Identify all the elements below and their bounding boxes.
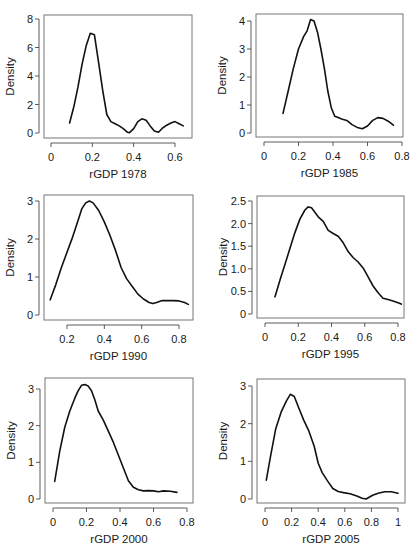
x-tick-label: 0.2 xyxy=(59,333,74,345)
y-tick-label: 2.0 xyxy=(231,218,246,230)
y-axis-label: Density xyxy=(217,238,229,277)
x-axis-label: rGDP 1995 xyxy=(302,348,359,360)
x-tick-label: 0.4 xyxy=(325,150,340,162)
x-tick-label: 0.8 xyxy=(390,331,405,343)
y-tick-label: 2.5 xyxy=(231,195,246,207)
y-axis-label: Density xyxy=(216,56,228,95)
x-tick-label: 0.2 xyxy=(291,331,306,343)
y-tick-label: 4 xyxy=(27,70,33,82)
density-figure-grid: 0246800.20.40.6rGDP 1978Density 0123400.… xyxy=(0,0,417,550)
x-axis-label: rGDP 1978 xyxy=(89,168,146,180)
y-tick-label: 1 xyxy=(240,455,246,467)
x-tick-label: 0.6 xyxy=(134,333,149,345)
y-axis-label: Density xyxy=(4,57,16,96)
density-plot-1990: 01230.20.40.60.8rGDP 1990Density xyxy=(0,182,210,364)
density-panel-1985: 0123400.20.40.60.8rGDP 1985Density xyxy=(210,0,417,180)
x-tick-label: 0 xyxy=(261,150,267,162)
y-tick-label: 1 xyxy=(239,99,245,111)
x-tick-label: 0.6 xyxy=(357,331,372,343)
x-axis: 0.20.40.60.8 xyxy=(59,325,186,345)
x-tick-label: 0.8 xyxy=(364,516,379,528)
density-curve xyxy=(275,207,401,304)
y-axis-label: Density xyxy=(217,422,229,461)
density-curve xyxy=(266,394,398,499)
density-panel-2005: 012300.20.40.60.81rGDP 2005Density xyxy=(210,366,417,550)
density-curve xyxy=(283,20,393,129)
y-tick-label: 4 xyxy=(239,15,245,27)
x-axis: 00.20.40.60.8 xyxy=(50,508,195,528)
y-tick-label: 2 xyxy=(28,420,34,432)
density-curve xyxy=(70,33,184,132)
x-tick-label: 0.8 xyxy=(394,150,409,162)
y-tick-label: 1 xyxy=(28,456,34,468)
y-axis: 0123 xyxy=(28,383,40,505)
y-tick-label: 0 xyxy=(240,493,246,505)
x-tick-label: 0.2 xyxy=(291,150,306,162)
x-tick-label: 0.8 xyxy=(179,516,194,528)
y-tick-label: 6 xyxy=(27,42,33,54)
y-tick-label: 1 xyxy=(27,271,33,283)
y-tick-label: 3 xyxy=(240,380,246,392)
y-tick-label: 2 xyxy=(240,418,246,430)
x-axis-label: rGDP 2005 xyxy=(302,533,359,545)
plot-frame xyxy=(257,196,404,318)
y-tick-label: 1.0 xyxy=(231,263,246,275)
y-tick-label: 2 xyxy=(239,71,245,83)
x-axis: 00.20.40.6 xyxy=(48,143,183,163)
x-tick-label: 0.4 xyxy=(126,151,141,163)
y-tick-label: 0 xyxy=(240,308,246,320)
x-tick-label: 0.2 xyxy=(79,516,94,528)
y-axis-label: Density xyxy=(4,238,16,277)
density-panel-1990: 01230.20.40.60.8rGDP 1990Density xyxy=(0,182,210,364)
x-tick-label: 0 xyxy=(262,331,268,343)
x-tick-label: 0.2 xyxy=(284,516,299,528)
x-axis: 00.20.40.60.8 xyxy=(261,142,410,162)
x-tick-label: 0.2 xyxy=(85,151,100,163)
y-tick-label: 0 xyxy=(27,309,33,321)
y-axis: 0123 xyxy=(27,195,39,321)
x-tick-label: 0 xyxy=(48,151,54,163)
density-panel-1978: 0246800.20.40.6rGDP 1978Density xyxy=(0,0,210,180)
plot-frame xyxy=(44,15,192,138)
x-tick-label: 0.6 xyxy=(146,516,161,528)
density-plot-1985: 0123400.20.40.60.8rGDP 1985Density xyxy=(210,0,417,180)
y-axis: 0123 xyxy=(240,380,252,505)
y-tick-label: 0 xyxy=(239,127,245,139)
x-axis: 00.20.40.60.81 xyxy=(262,508,401,528)
density-curve xyxy=(50,201,188,304)
density-panel-2000: 012300.20.40.60.8rGDP 2000Density xyxy=(0,366,210,550)
plot-frame xyxy=(45,378,193,503)
y-tick-label: 1.5 xyxy=(231,240,246,252)
y-tick-label: 0 xyxy=(28,493,34,505)
y-tick-label: 0.5 xyxy=(231,285,246,297)
x-axis-label: rGDP 1990 xyxy=(90,350,147,362)
y-tick-label: 8 xyxy=(27,13,33,25)
x-tick-label: 0.4 xyxy=(324,331,339,343)
x-tick-label: 0.4 xyxy=(311,516,326,528)
x-tick-label: 0.6 xyxy=(167,151,182,163)
x-tick-label: 0.8 xyxy=(171,333,186,345)
y-tick-label: 3 xyxy=(239,43,245,55)
y-tick-label: 3 xyxy=(28,383,34,395)
density-curve xyxy=(55,385,177,493)
y-tick-label: 2 xyxy=(27,233,33,245)
x-axis-label: rGDP 1985 xyxy=(301,167,358,179)
y-tick-label: 3 xyxy=(27,195,33,207)
plot-frame xyxy=(257,379,405,503)
density-plot-2000: 012300.20.40.60.8rGDP 2000Density xyxy=(0,366,210,550)
x-axis-label: rGDP 2000 xyxy=(90,533,147,545)
density-plot-1995: 00.51.01.52.02.500.20.40.60.8rGDP 1995De… xyxy=(210,182,417,364)
y-axis: 00.51.01.52.02.5 xyxy=(231,195,252,320)
x-tick-label: 0.4 xyxy=(112,516,127,528)
y-axis-label: Density xyxy=(5,421,17,460)
y-tick-label: 0 xyxy=(27,127,33,139)
x-tick-label: 0.4 xyxy=(97,333,112,345)
density-plot-2005: 012300.20.40.60.81rGDP 2005Density xyxy=(210,366,417,550)
y-axis: 01234 xyxy=(239,15,251,139)
x-tick-label: 0 xyxy=(50,516,56,528)
y-axis: 02468 xyxy=(27,13,39,139)
x-axis: 00.20.40.60.8 xyxy=(262,323,406,343)
x-tick-label: 0.6 xyxy=(337,516,352,528)
density-panel-1995: 00.51.01.52.02.500.20.40.60.8rGDP 1995De… xyxy=(210,182,417,364)
x-tick-label: 0 xyxy=(262,516,268,528)
